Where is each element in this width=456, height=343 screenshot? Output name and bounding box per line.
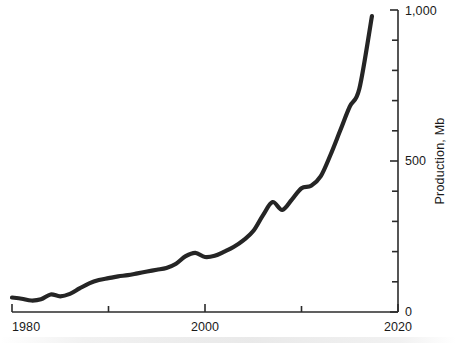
chart-figure: 1980 2000 2020 0 500 1,000 Production, M… — [0, 0, 456, 343]
production-series-line — [12, 16, 372, 300]
x-tick-label-2020: 2020 — [384, 320, 412, 334]
y-tick-label-500: 500 — [405, 154, 426, 168]
y-tick-label-1000: 1,000 — [405, 4, 437, 18]
y-axis-title: Production, Mb — [433, 118, 447, 205]
production-line-chart: 1980 2000 2020 0 500 1,000 Production, M… — [0, 0, 456, 343]
x-tick-label-2000: 2000 — [191, 320, 219, 334]
y-tick-label-0: 0 — [405, 305, 412, 319]
x-tick-label-1980: 1980 — [12, 320, 40, 334]
